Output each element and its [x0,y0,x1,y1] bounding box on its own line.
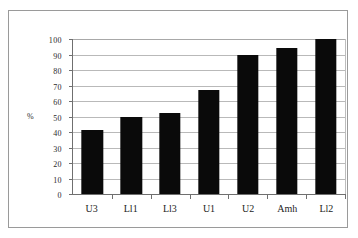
x-axis-label: U3 [85,203,97,214]
y-axis-tick-label: 60 [53,98,62,107]
x-axis-tick [190,194,191,199]
y-axis-tick: 0 [69,194,73,195]
bar [237,55,258,195]
y-axis-tick-label: 0 [58,191,62,200]
bar-slot [267,39,306,194]
bar [276,48,297,194]
y-axis-tick-label: 20 [53,160,62,169]
bar-slot [112,39,151,194]
y-axis-tick-label: 90 [53,51,62,60]
y-axis-title: % [27,112,34,121]
x-axis-tick [228,194,229,199]
x-axis-tick [345,194,346,199]
x-axis-label: Ll2 [319,203,333,214]
bar [198,90,219,194]
y-axis-tick-label: 80 [53,67,62,76]
x-axis-tick [306,194,307,199]
bar-slot [228,39,267,194]
bar [159,113,180,194]
y-axis-tick-label: 30 [53,144,62,153]
bar [121,117,142,195]
y-axis-tick-label: 40 [53,129,62,138]
x-axis-tick [112,194,113,199]
bar-slot [73,39,112,194]
x-axis-label: Amh [277,203,297,214]
x-axis-label: Ll3 [163,203,177,214]
y-axis-tick-label: 100 [49,36,62,45]
y-axis-tick-label: 70 [53,82,62,91]
bar-slot [190,39,229,194]
y-axis-tick-label: 50 [53,113,62,122]
figure-border: % 0102030405060708090100 U3Ll1Ll3U1U2Amh… [8,10,348,228]
x-axis-label: U1 [203,203,215,214]
x-axis-tick [267,194,268,199]
bar-chart-figure: % 0102030405060708090100 U3Ll1Ll3U1U2Amh… [0,0,358,238]
x-axis-label: Ll1 [124,203,138,214]
x-axis-tick [151,194,152,199]
plot-area: 0102030405060708090100 [72,39,346,195]
bar-slot [306,39,345,194]
y-axis-tick-label: 10 [53,175,62,184]
x-axis-label: U2 [242,203,254,214]
bar [315,39,336,194]
bar-slot [151,39,190,194]
bar [82,130,103,194]
